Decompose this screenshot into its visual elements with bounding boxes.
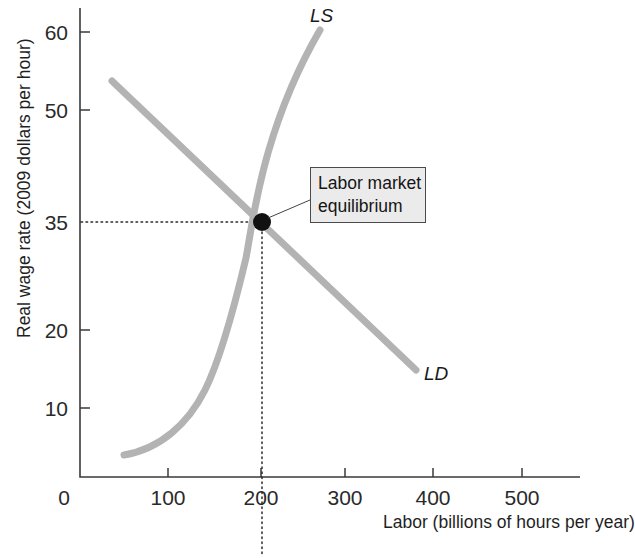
x-tick-label-200: 200 (236, 487, 286, 508)
x-tick-marks (168, 468, 522, 477)
equilibrium-point-marker (253, 213, 271, 231)
x-tick-label-300: 300 (320, 487, 370, 508)
equilibrium-callout-box: Labor market equilibrium (310, 167, 426, 223)
callout-line-2: equilibrium (318, 195, 425, 218)
y-tick-marks (80, 32, 90, 408)
callout-line-1: Labor market (318, 172, 425, 195)
y-axis-title: Real wage rate (2009 dollars per hour) (16, 38, 34, 338)
y-tick-label-10: 10 (18, 398, 68, 419)
x-axis-title: Labor (billions of hours per year) (383, 514, 635, 532)
x-tick-label-500: 500 (497, 487, 547, 508)
labor-supply-curve (124, 30, 320, 455)
callout-leader-line (268, 200, 310, 218)
labor-supply-curve-label: LS (310, 6, 333, 25)
x-tick-label-100: 100 (143, 487, 193, 508)
axis-lines (80, 8, 580, 477)
x-tick-label-400: 400 (408, 487, 458, 508)
x-tick-label-0: 0 (39, 487, 89, 508)
labor-demand-curve-label: LD (424, 364, 448, 383)
